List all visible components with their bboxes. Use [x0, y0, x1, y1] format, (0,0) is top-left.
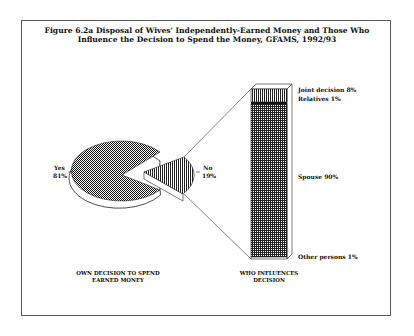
- bar-caption-2: DECISION: [253, 277, 285, 283]
- pie-no-value: 19%: [202, 172, 216, 179]
- bar-segment-joint: [251, 89, 287, 102]
- pie-caption-1: OWN DECISION TO SPEND: [76, 270, 160, 276]
- bar-segment-other: [251, 257, 287, 259]
- bar-label-joint: Joint decision 8%: [297, 86, 357, 94]
- connector-top: [184, 89, 251, 157]
- pie-caption-2: EARNED MONEY: [92, 277, 144, 283]
- pie-no-label: No: [203, 164, 213, 171]
- bar-segment-spouse: [251, 104, 287, 257]
- connector-bottom: [184, 194, 251, 259]
- bar-caption-1: WHO INFLUENCES: [239, 270, 299, 276]
- bar-label-other: Other persons 1%: [298, 253, 358, 261]
- pie-yes-value: 81%: [53, 172, 67, 179]
- pie-yes-label: Yes: [53, 164, 66, 171]
- stacked-bar: [251, 84, 292, 259]
- chart-canvas: Yes 81% No 19% Joint decision 8% Relativ…: [0, 0, 414, 336]
- bar-label-spouse: Spouse 90%: [298, 173, 339, 181]
- bar-label-relatives: Relatives 1%: [298, 95, 341, 102]
